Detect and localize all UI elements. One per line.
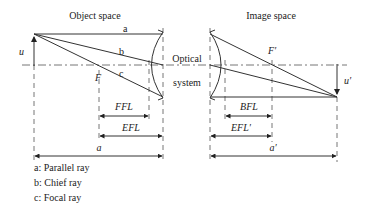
object-distance-label: a [97, 142, 102, 153]
object-space-title: Object space [69, 10, 121, 21]
ray-a-label: a [123, 23, 128, 34]
image-distance-label: a′ [269, 142, 277, 153]
optical-system-label-line2: system [173, 77, 201, 88]
ray-a-image [210, 34, 337, 97]
legend-item-focal-ray: c: Focal ray [34, 192, 81, 203]
efl-label: EFL [121, 122, 140, 133]
image-height-label: u′ [344, 75, 352, 86]
ray-b-label: b [119, 46, 124, 57]
object-height-label: u [19, 46, 24, 57]
bfl-label: BFL [240, 101, 258, 112]
legend-item-parallel-ray: a: Parallel ray [34, 162, 90, 173]
efl-prime-label: EFL′ [230, 122, 252, 133]
ffl-label: FFL [114, 101, 133, 112]
optical-system-label-line1: Optical [172, 53, 202, 64]
back-focus-label: F′ [267, 45, 277, 56]
front-focus-label: F [94, 72, 102, 83]
legend-item-chief-ray: b: Chief ray [34, 177, 82, 188]
ray-c-label: c [119, 68, 124, 79]
ray-c-object [34, 34, 163, 97]
optical-system-diagram: Object space Image space Optical system … [0, 0, 365, 213]
ray-b-object [34, 34, 163, 65]
ray-b-image [210, 65, 337, 97]
image-space-title: Image space [246, 10, 296, 21]
